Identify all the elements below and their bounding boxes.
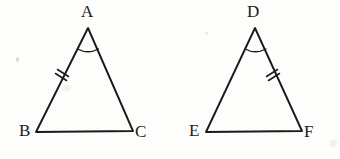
triangle-def (206, 28, 302, 132)
angle-arc-d (245, 49, 266, 52)
scan-speck (205, 32, 208, 35)
vertex-label-a: A (81, 3, 93, 20)
scan-speck (62, 85, 71, 91)
geometry-figure-canvas: A B C D E F (0, 0, 340, 159)
triangle-abc (36, 28, 133, 132)
vertex-label-c: C (135, 123, 146, 140)
triangle-def-outline (206, 28, 302, 132)
vertex-label-f: F (304, 123, 313, 140)
vertex-label-d: D (247, 3, 259, 20)
scan-speck (330, 140, 337, 147)
angle-arc-a (78, 49, 99, 52)
vertex-label-e: E (189, 122, 199, 139)
vertex-label-b: B (19, 122, 30, 139)
triangle-abc-outline (36, 28, 133, 132)
two-triangles-diagram (0, 0, 340, 159)
scan-speck (16, 57, 19, 62)
